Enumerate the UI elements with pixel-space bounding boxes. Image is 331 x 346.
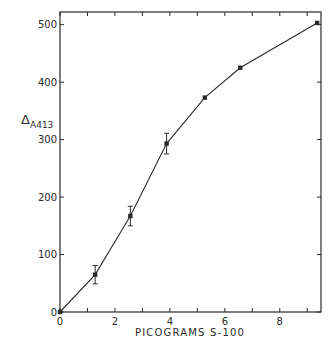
x-tick-label: 2 [112, 316, 118, 327]
y-axis-ticks: 0100200300400500 [38, 19, 321, 317]
data-point-marker [164, 141, 168, 145]
y-tick-label: 500 [38, 19, 57, 30]
y-axis-symbol: Δ [21, 112, 30, 127]
data-point-marker [238, 66, 242, 70]
series-line [60, 23, 317, 312]
x-axis-title: PICOGRAMS S-100 [135, 327, 245, 338]
x-tick-label: 0 [57, 316, 63, 327]
x-tick-label: 8 [277, 316, 283, 327]
line-chart: 02468 0100200300400500 PICOGRAMS S-100 Δ… [0, 0, 331, 346]
x-tick-label: 4 [167, 316, 173, 327]
data-point-marker [93, 272, 97, 276]
x-tick-label: 6 [222, 316, 228, 327]
data-point-marker [315, 21, 319, 25]
chart-container: 02468 0100200300400500 PICOGRAMS S-100 Δ… [0, 0, 331, 346]
data-series [58, 21, 320, 314]
x-axis-ticks: 02468 [57, 12, 307, 327]
y-tick-label: 200 [38, 192, 57, 203]
data-point-marker [203, 95, 207, 99]
data-point-marker [128, 214, 132, 218]
y-axis-title: Δ A413 [21, 112, 53, 130]
y-tick-label: 300 [38, 134, 57, 145]
data-point-marker [58, 310, 62, 314]
y-tick-label: 400 [38, 77, 57, 88]
y-axis-subscript: A413 [30, 120, 53, 130]
y-tick-label: 0 [51, 307, 57, 318]
y-tick-label: 100 [38, 249, 57, 260]
